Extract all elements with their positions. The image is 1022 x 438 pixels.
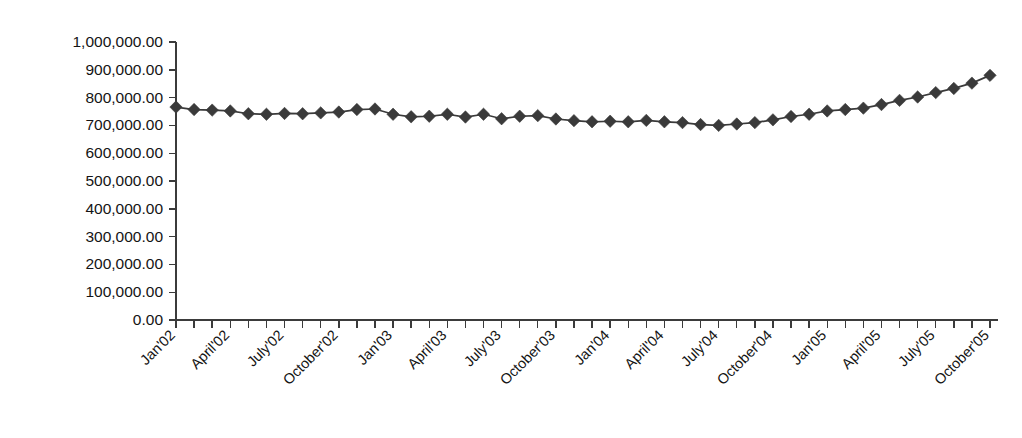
- x-tick-label: July'04: [678, 327, 721, 370]
- data-point-marker: [785, 110, 797, 122]
- data-point-marker: [767, 114, 779, 126]
- data-point-marker: [278, 107, 290, 119]
- data-point-marker: [568, 114, 580, 126]
- data-point-marker: [188, 103, 200, 115]
- x-tick-label: Jan'02: [137, 327, 178, 368]
- data-point-marker: [423, 110, 435, 122]
- y-tick-label: 200,000.00: [85, 255, 163, 272]
- data-point-marker: [206, 104, 218, 116]
- data-point-marker: [550, 113, 562, 125]
- x-tick-label: April'03: [404, 327, 449, 372]
- line-chart: 0.00100,000.00200,000.00300,000.00400,00…: [0, 0, 1022, 438]
- data-point-marker: [369, 103, 381, 115]
- data-point-marker: [658, 116, 670, 128]
- data-point-marker: [495, 113, 507, 125]
- x-tick-label: Jan'03: [354, 327, 395, 368]
- data-point-marker: [586, 116, 598, 128]
- data-point-marker: [604, 115, 616, 127]
- data-point-marker: [839, 103, 851, 115]
- data-point-marker: [387, 108, 399, 120]
- y-tick-label: 0.00: [133, 311, 164, 328]
- data-point-marker: [694, 118, 706, 130]
- y-tick-label: 800,000.00: [85, 89, 163, 106]
- data-point-marker: [170, 101, 182, 113]
- x-tick-label: April'04: [621, 327, 666, 372]
- y-tick-label: 300,000.00: [85, 228, 163, 245]
- y-tick-label: 900,000.00: [85, 61, 163, 78]
- x-tick-label: July'02: [244, 327, 287, 370]
- y-tick-label: 700,000.00: [85, 116, 163, 133]
- data-point-marker: [333, 106, 345, 118]
- data-point-marker: [731, 118, 743, 130]
- data-point-marker: [315, 107, 327, 119]
- chart-container: 0.00100,000.00200,000.00300,000.00400,00…: [0, 0, 1022, 438]
- data-point-marker: [821, 105, 833, 117]
- x-tick-label: July'05: [895, 327, 938, 370]
- data-point-marker: [803, 108, 815, 120]
- data-point-marker: [477, 108, 489, 120]
- y-tick-label: 1,000,000.00: [72, 33, 163, 50]
- data-point-marker: [966, 77, 978, 89]
- data-point-marker: [405, 111, 417, 123]
- x-tick-label: Jan'04: [571, 327, 612, 368]
- x-tick-label: October'05: [931, 327, 992, 388]
- y-tick-label: 100,000.00: [85, 283, 163, 300]
- data-point-marker: [857, 102, 869, 114]
- data-point-marker: [893, 94, 905, 106]
- data-point-marker: [930, 86, 942, 98]
- data-point-marker: [712, 119, 724, 131]
- data-point-marker: [459, 111, 471, 123]
- data-point-marker: [513, 110, 525, 122]
- data-point-marker: [640, 114, 652, 126]
- data-point-marker: [984, 69, 996, 81]
- x-tick-label: April'02: [187, 327, 232, 372]
- x-tick-label: October'04: [714, 327, 775, 388]
- data-point-marker: [676, 116, 688, 128]
- data-point-marker: [749, 116, 761, 128]
- data-point-marker: [911, 91, 923, 103]
- x-tick-label: October'02: [280, 327, 341, 388]
- data-point-marker: [224, 105, 236, 117]
- data-point-marker: [351, 103, 363, 115]
- data-point-marker: [260, 108, 272, 120]
- data-point-marker: [532, 109, 544, 121]
- plot-area: [170, 69, 996, 131]
- y-tick-label: 500,000.00: [85, 172, 163, 189]
- x-axis: Jan'02April'02July'02October'02Jan'03Apr…: [137, 320, 998, 388]
- y-tick-label: 600,000.00: [85, 144, 163, 161]
- series-line: [176, 75, 990, 125]
- x-tick-label: Jan'05: [788, 327, 829, 368]
- data-point-marker: [242, 108, 254, 120]
- y-tick-label: 400,000.00: [85, 200, 163, 217]
- x-tick-label: April'05: [838, 327, 883, 372]
- data-point-marker: [948, 82, 960, 94]
- data-point-marker: [875, 98, 887, 110]
- x-tick-label: July'03: [461, 327, 504, 370]
- data-point-marker: [622, 116, 634, 128]
- data-point-marker: [296, 108, 308, 120]
- y-axis: 0.00100,000.00200,000.00300,000.00400,00…: [72, 33, 176, 328]
- x-tick-label: October'03: [497, 327, 558, 388]
- data-point-marker: [441, 108, 453, 120]
